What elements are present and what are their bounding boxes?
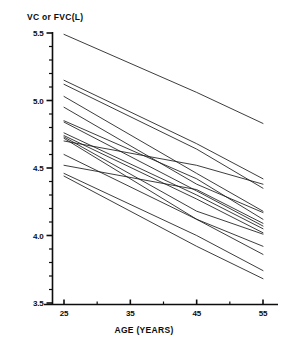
y-tick-label: 5.0 [33,97,44,106]
series-line-subject-13 [64,155,263,255]
series-line-subject-9 [64,136,263,233]
series-line-subject-7 [64,122,263,226]
x-tick-label: 35 [126,309,135,318]
y-tick-label: 3.5 [33,299,44,308]
series-line-subject-15 [64,173,263,270]
series-line-subject-16 [64,176,263,279]
y-tick-label: 4.0 [33,232,44,241]
x-tick-label: 25 [60,309,69,318]
y-axis-tick-labels: 3.54.04.55.05.5 [33,29,44,308]
line-chart-plot: 3.54.04.55.05.5 25354555 [0,0,288,345]
y-tick-label: 4.5 [33,164,44,173]
y-tick-label: 5.5 [33,29,44,38]
series-line-subject-1 [64,34,263,123]
x-axis-tick-labels: 25354555 [60,309,268,318]
x-tick-label: 55 [259,309,268,318]
x-tick-label: 45 [192,309,201,318]
series-line-subject-3 [64,84,263,188]
data-series-group [64,34,263,278]
y-axis-ticks [47,33,53,303]
series-line-subject-8 [64,133,263,229]
x-axis-title: AGE (YEARS) [0,325,288,335]
series-line-subject-6 [64,121,263,220]
series-line-subject-5 [64,107,263,212]
chart-figure: VC or FVC(L) 3.54.04.55.05.5 25354555 AG… [0,0,288,345]
